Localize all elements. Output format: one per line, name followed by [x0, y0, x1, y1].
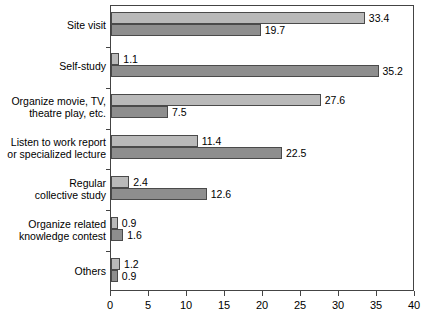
bar	[111, 176, 129, 188]
bar-value-label: 27.6	[325, 94, 345, 106]
x-axis-tick	[110, 291, 111, 296]
bar-value-label: 1.1	[123, 53, 138, 65]
category-label: Site visit	[1, 19, 106, 31]
y-axis-tick	[106, 88, 111, 89]
x-axis-tick-label: 25	[285, 299, 315, 311]
bar-value-label: 12.6	[211, 188, 231, 200]
bar-value-label: 33.4	[369, 12, 389, 24]
x-axis-tick-label: 20	[247, 299, 277, 311]
x-axis-tick	[414, 291, 415, 296]
category-label: Others	[1, 265, 106, 277]
bar	[111, 147, 282, 159]
bar	[111, 106, 168, 118]
x-axis-tick-label: 0	[95, 299, 125, 311]
y-axis-tick	[106, 210, 111, 211]
bar-value-label: 1.6	[127, 229, 142, 241]
x-axis-tick	[224, 291, 225, 296]
x-axis-tick-label: 40	[399, 299, 427, 311]
y-axis-tick	[106, 169, 111, 170]
bar	[111, 217, 118, 229]
x-axis-tick-label: 35	[361, 299, 391, 311]
x-axis-tick-label: 5	[133, 299, 163, 311]
bar-chart: Site visitSelf-studyOrganize movie, TV, …	[0, 0, 427, 321]
bar-value-label: 0.9	[122, 270, 137, 282]
category-label: Organize movie, TV, theatre play, etc.	[1, 95, 106, 119]
x-axis-tick	[148, 291, 149, 296]
x-axis-tick	[338, 291, 339, 296]
y-axis-tick	[106, 47, 111, 48]
bar	[111, 229, 123, 241]
category-label: Regular collective study	[1, 177, 106, 201]
bar-value-label: 35.2	[383, 65, 403, 77]
x-axis-tick	[186, 291, 187, 296]
x-axis-tick	[300, 291, 301, 296]
bar	[111, 258, 120, 270]
bar	[111, 270, 118, 282]
bar	[111, 24, 261, 36]
plot-area: 33.419.71.135.227.67.511.422.52.412.60.9…	[110, 5, 414, 291]
bar	[111, 12, 365, 24]
bar	[111, 65, 379, 77]
bar-value-label: 2.4	[133, 176, 148, 188]
y-axis-tick	[106, 129, 111, 130]
x-axis-tick-label: 30	[323, 299, 353, 311]
bar	[111, 94, 321, 106]
bar-value-label: 7.5	[172, 106, 187, 118]
category-label: Organize related knowledge contest	[1, 218, 106, 242]
bar-value-label: 11.4	[202, 135, 222, 147]
bar-value-label: 19.7	[265, 24, 285, 36]
bar-value-label: 22.5	[286, 147, 306, 159]
x-axis-tick-label: 10	[171, 299, 201, 311]
y-axis-tick	[106, 251, 111, 252]
bar	[111, 188, 207, 200]
category-label: Self-study	[1, 60, 106, 72]
bar-value-label: 1.2	[124, 258, 139, 270]
bar	[111, 135, 198, 147]
bar	[111, 53, 119, 65]
x-axis-tick	[262, 291, 263, 296]
x-axis-tick-label: 15	[209, 299, 239, 311]
category-label: Listen to work report or specialized lec…	[1, 136, 106, 160]
x-axis-tick	[376, 291, 377, 296]
bar-value-label: 0.9	[122, 217, 137, 229]
